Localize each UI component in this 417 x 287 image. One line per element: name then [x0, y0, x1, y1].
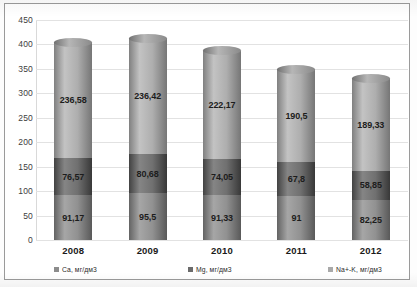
bar-segment[interactable]: 190,5 [277, 69, 315, 162]
y-axis-tick-label: 400 [7, 39, 33, 49]
y-axis-tick-label: 0 [7, 235, 33, 245]
bar-value-label: 236,42 [129, 91, 167, 101]
cylinder-top-cap [203, 46, 241, 55]
y-axis-ticks: 450400350300250200150100500 [5, 20, 33, 240]
bar-value-label: 91 [277, 213, 315, 223]
bar-segment[interactable]: 80,68 [129, 154, 167, 193]
x-axis-label-2008: 2008 [43, 245, 103, 256]
bar-value-label: 67,8 [277, 174, 315, 184]
bar-segment[interactable]: 91,33 [203, 195, 241, 240]
legend-item[interactable]: Na+-K, мг/дм3 [328, 266, 382, 273]
bar-segment[interactable]: 91 [277, 196, 315, 240]
bar-segment[interactable]: 91,17 [54, 195, 92, 240]
y-axis-tick-label: 150 [7, 162, 33, 172]
bar-value-label: 189,33 [352, 120, 390, 130]
bar-group[interactable]: 91,1776,57236,58 [54, 20, 92, 240]
x-axis-label-2012: 2012 [341, 245, 401, 256]
cylinder-top-cap [277, 65, 315, 74]
bar-value-label: 74,05 [203, 172, 241, 182]
x-axis-label-2010: 2010 [192, 245, 252, 256]
legend-item[interactable]: Mg, мг/дм3 [188, 266, 232, 273]
chart-legend: Ca, мг/дм3Mg, мг/дм3Na+-K, мг/дм3 [36, 266, 408, 280]
y-axis-tick-label: 200 [7, 137, 33, 147]
bar-segment[interactable]: 76,57 [54, 158, 92, 195]
gridline [36, 240, 408, 241]
legend-swatch-icon [54, 267, 59, 272]
bar-value-label: 236,58 [54, 95, 92, 105]
cylinder-top-cap [54, 38, 92, 47]
bar-group[interactable]: 82,2558,85189,33 [352, 20, 390, 240]
bar-value-label: 82,25 [352, 215, 390, 225]
bars-layer: 91,1776,57236,5895,580,68236,4291,3374,0… [36, 20, 408, 240]
bar-value-label: 91,17 [54, 213, 92, 223]
legend-swatch-icon [328, 267, 333, 272]
bar-value-label: 80,68 [129, 169, 167, 179]
bar-segment[interactable]: 236,58 [54, 42, 92, 158]
chart-frame: 450400350300250200150100500 91,1776,5723… [4, 3, 410, 280]
bar-segment[interactable]: 58,85 [352, 171, 390, 200]
chart-container: 450400350300250200150100500 91,1776,5723… [0, 0, 417, 287]
bar-value-label: 58,85 [352, 180, 390, 190]
x-axis-labels: 20082009201020112012 [36, 245, 408, 261]
y-axis-tick-label: 50 [7, 211, 33, 221]
bar-value-label: 190,5 [277, 111, 315, 121]
bar-value-label: 91,33 [203, 213, 241, 223]
y-axis-tick-label: 350 [7, 64, 33, 74]
bar-segment[interactable]: 95,5 [129, 193, 167, 240]
bar-segment[interactable]: 82,25 [352, 200, 390, 240]
bar-group[interactable]: 95,580,68236,42 [129, 20, 167, 240]
bar-segment[interactable]: 222,17 [203, 51, 241, 160]
bar-segment[interactable]: 236,42 [129, 38, 167, 154]
bar-group[interactable]: 91,3374,05222,17 [203, 20, 241, 240]
y-axis-tick-label: 450 [7, 15, 33, 25]
legend-label: Na+-K, мг/дм3 [336, 266, 382, 273]
bar-value-label: 95,5 [129, 212, 167, 222]
bar-segment[interactable]: 74,05 [203, 159, 241, 195]
legend-label: Ca, мг/дм3 [62, 266, 97, 273]
cylinder-top-cap [352, 74, 390, 83]
x-axis-label-2011: 2011 [266, 245, 326, 256]
y-axis-tick-label: 250 [7, 113, 33, 123]
y-axis-tick-label: 100 [7, 186, 33, 196]
bar-value-label: 76,57 [54, 172, 92, 182]
legend-label: Mg, мг/дм3 [196, 266, 232, 273]
bar-segment[interactable]: 189,33 [352, 78, 390, 171]
bar-value-label: 222,17 [203, 100, 241, 110]
cylinder-top-cap [129, 34, 167, 43]
legend-item[interactable]: Ca, мг/дм3 [54, 266, 97, 273]
bar-group[interactable]: 9167,8190,5 [277, 20, 315, 240]
legend-swatch-icon [188, 267, 193, 272]
y-axis-tick-label: 300 [7, 88, 33, 98]
x-axis-label-2009: 2009 [118, 245, 178, 256]
bar-segment[interactable]: 67,8 [277, 162, 315, 195]
